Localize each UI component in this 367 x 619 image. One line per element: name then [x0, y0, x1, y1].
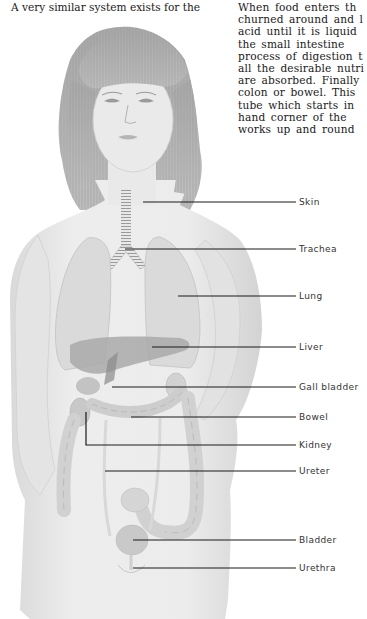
label-skin: Skin: [299, 197, 320, 207]
sigmoid-colon: [121, 488, 149, 512]
anatomy-illustration: [0, 0, 367, 619]
label-bowel: Bowel: [299, 412, 328, 422]
label-ureter: Ureter: [299, 466, 330, 476]
label-bladder: Bladder: [299, 535, 337, 545]
label-kidney: Kidney: [299, 440, 332, 450]
label-urethra: Urethra: [299, 563, 336, 573]
label-gall-bladder: Gall bladder: [299, 382, 359, 392]
trachea: [121, 188, 131, 246]
gall-bladder: [76, 377, 100, 395]
label-trachea: Trachea: [299, 244, 337, 254]
label-lung: Lung: [299, 291, 323, 301]
label-liver: Liver: [299, 342, 323, 352]
